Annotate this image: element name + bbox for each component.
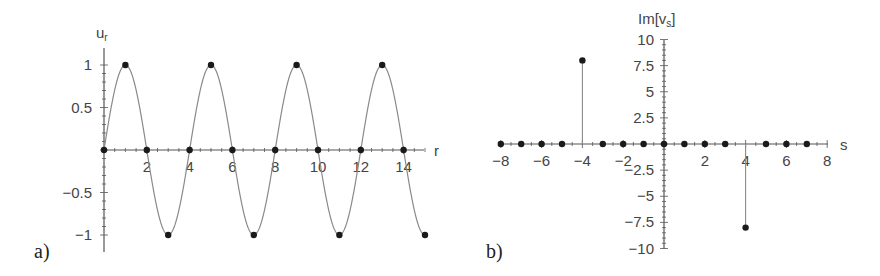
data-point <box>422 232 428 238</box>
chart-panel-a: 246810121410.5−0.5−1urra) <box>34 24 439 263</box>
data-point <box>518 141 524 147</box>
data-point <box>400 147 406 153</box>
x-tick-label: 10 <box>310 158 327 175</box>
data-point <box>272 147 278 153</box>
data-point <box>600 141 606 147</box>
y-axis-label: ur <box>96 24 108 43</box>
panel-label-a: a) <box>34 240 50 263</box>
data-point <box>702 141 708 147</box>
y-axis-label: Im[vs] <box>638 10 676 29</box>
data-point <box>358 147 364 153</box>
x-tick-label: −6 <box>533 152 550 169</box>
y-tick-label: −2.5 <box>624 161 654 178</box>
data-point <box>379 62 385 68</box>
x-axis-label: s <box>840 136 848 153</box>
data-point <box>315 147 321 153</box>
y-tick-label: −10 <box>629 240 654 257</box>
data-point <box>251 232 257 238</box>
y-tick-label: −1 <box>75 226 92 243</box>
data-point <box>640 141 646 147</box>
data-point <box>804 141 810 147</box>
y-tick-label: 0.5 <box>71 99 92 116</box>
data-point <box>208 62 214 68</box>
x-tick-label: 2 <box>701 152 709 169</box>
data-point <box>122 62 128 68</box>
y-tick-label: −7.5 <box>624 213 654 230</box>
data-point <box>293 62 299 68</box>
data-point <box>783 141 789 147</box>
x-tick-label: 6 <box>782 152 790 169</box>
x-tick-label: 8 <box>823 152 831 169</box>
chart-panel-b: −8−6−4−22468107.552.5−2.5−5−7.5−10Im[vs]… <box>486 10 848 263</box>
data-point <box>538 141 544 147</box>
y-tick-label: 2.5 <box>633 109 654 126</box>
x-tick-label: −4 <box>574 152 591 169</box>
data-point <box>144 147 150 153</box>
data-point <box>498 141 504 147</box>
y-tick-label: 7.5 <box>633 57 654 74</box>
data-point <box>559 141 565 147</box>
data-point <box>620 141 626 147</box>
x-tick-label: 14 <box>395 158 412 175</box>
data-point <box>336 232 342 238</box>
figure: 246810121410.5−0.5−1urra) −8−6−4−2246810… <box>0 0 880 276</box>
y-tick-label: 5 <box>646 83 654 100</box>
y-tick-label: −5 <box>637 187 654 204</box>
panel-label-b: b) <box>486 240 503 263</box>
data-point <box>681 141 687 147</box>
x-axis-label: r <box>434 142 439 159</box>
data-point <box>186 147 192 153</box>
data-point <box>763 141 769 147</box>
data-point <box>722 141 728 147</box>
x-tick-label: −8 <box>492 152 509 169</box>
x-tick-label: 12 <box>352 158 369 175</box>
y-tick-label: 10 <box>637 31 654 48</box>
y-tick-label: −0.5 <box>62 184 92 201</box>
y-tick-label: 1 <box>84 56 92 73</box>
data-point <box>661 141 667 147</box>
data-point <box>101 147 107 153</box>
data-point <box>579 57 585 63</box>
data-point <box>742 224 748 230</box>
data-point <box>165 232 171 238</box>
data-point <box>229 147 235 153</box>
